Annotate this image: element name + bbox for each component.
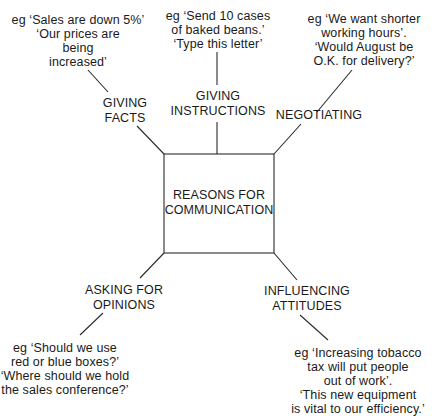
connector-influencing-example	[300, 315, 328, 340]
asking-for-opinions-example: eg ‘Should we use red or blue boxes?’ ‘W…	[0, 341, 130, 397]
connector-facts-example	[88, 70, 108, 92]
negotiating-label: NEGOTIATING	[272, 108, 366, 123]
connector-opinions-box	[140, 253, 164, 278]
connector-opinions-example	[80, 313, 103, 335]
influencing-attitudes-example: eg ‘Increasing tobacco tax will put peop…	[284, 346, 432, 416]
negotiating-example: eg ‘We want shorter working hours’. ‘Wou…	[296, 12, 432, 68]
giving-instructions-label: GIVING INSTRUCTIONS	[170, 89, 266, 119]
connector-negotiating-example	[317, 70, 352, 112]
giving-facts-label: GIVING FACTS	[90, 96, 160, 126]
center-label: REASONS FOR COMMUNICATION	[164, 188, 274, 218]
asking-for-opinions-label: ASKING FOR OPINIONS	[84, 283, 164, 313]
giving-facts-example: eg ‘Sales are down 5%’ ‘Our prices are b…	[0, 13, 156, 69]
giving-instructions-example: eg ‘Send 10 cases of baked beans.’ ‘Type…	[152, 9, 284, 51]
connector-influencing-box	[274, 253, 297, 280]
connector-facts-box	[137, 126, 164, 154]
connector-negotiating-box	[274, 124, 301, 154]
influencing-attitudes-label: INFLUENCING ATTITUDES	[262, 284, 352, 314]
